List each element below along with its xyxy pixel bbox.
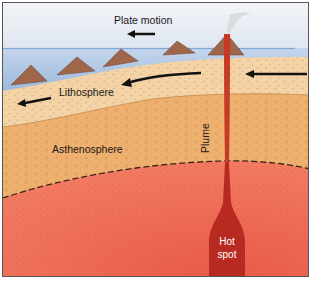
diagram-frame: Plate motion Lithosphere Asthenosphere P… <box>2 2 309 277</box>
lithosphere-label: Lithosphere <box>59 86 114 98</box>
plate-motion-label: Plate motion <box>114 14 172 26</box>
asthenosphere-label: Asthenosphere <box>52 143 123 155</box>
hot-spot-label: Hot spot <box>208 235 246 261</box>
plume-label: Plume <box>199 123 211 153</box>
hot-spot-diagram <box>3 3 309 277</box>
